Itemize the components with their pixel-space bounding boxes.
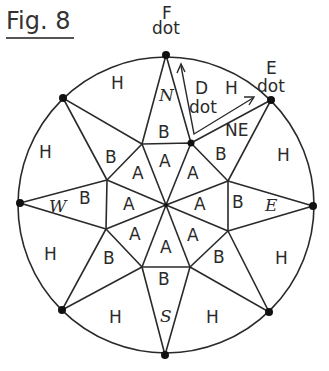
dot-S [161, 351, 169, 359]
label-A: A [129, 224, 141, 244]
label-B: B [79, 188, 91, 208]
label-A: A [160, 237, 172, 257]
diagram-canvas: Fig. 8 [0, 0, 329, 371]
dot-octagon-vertex [188, 140, 195, 147]
label-B: B [213, 247, 225, 267]
dot-N [162, 51, 170, 59]
dot-SW [58, 306, 66, 314]
label-H: H [39, 142, 52, 162]
dot-W [16, 199, 24, 207]
label-A: A [187, 163, 199, 183]
label-S: S [160, 306, 172, 326]
dot-NE [267, 96, 275, 104]
label-A: A [194, 194, 206, 214]
label-D: D [195, 78, 208, 98]
label-H: H [225, 78, 238, 98]
label-B: B [158, 269, 170, 289]
dot-E [309, 202, 317, 210]
label-B: B [232, 192, 244, 212]
dot-SE [265, 308, 273, 316]
label-A: A [187, 225, 199, 245]
label-E: E [264, 195, 278, 215]
label-F-dot: dot [152, 18, 180, 38]
label-B: B [105, 147, 117, 167]
figure-title: Fig. 8 [6, 7, 71, 35]
label-A: A [159, 151, 171, 171]
label-NE: NE [225, 120, 248, 140]
figure-8-diagram: Fig. 8 [0, 0, 329, 371]
label-A: A [123, 194, 135, 214]
label-B: B [215, 144, 227, 164]
label-H: H [111, 73, 124, 93]
label-H: H [109, 307, 122, 327]
label-B: B [158, 122, 170, 142]
label-B: B [103, 248, 115, 268]
label-W: W [49, 196, 68, 216]
label-H: H [206, 307, 219, 327]
label-H: H [277, 145, 290, 165]
label-N: N [158, 85, 175, 105]
label-E-top: E [266, 58, 277, 78]
label-E-dot: dot [257, 76, 285, 96]
label-H: H [275, 248, 288, 268]
label-A: A [132, 163, 144, 183]
dot-NW [59, 94, 67, 102]
label-D-dot: dot [189, 97, 217, 117]
label-H: H [44, 244, 57, 264]
dot-center [164, 203, 168, 207]
